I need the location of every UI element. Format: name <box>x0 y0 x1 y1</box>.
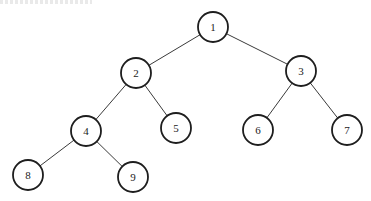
edge-2-4 <box>96 84 126 119</box>
node-label: 1 <box>210 21 216 33</box>
edge-1-2 <box>149 35 200 66</box>
node-label: 3 <box>298 65 304 77</box>
edge-3-6 <box>267 83 292 118</box>
tree-node-4: 4 <box>71 116 101 146</box>
edge-3-7 <box>310 83 338 118</box>
edge-4-9 <box>97 141 123 166</box>
tree-node-7: 7 <box>332 115 362 145</box>
edge-1-3 <box>226 34 287 65</box>
tree-node-1: 1 <box>198 12 228 42</box>
node-label: 6 <box>255 124 261 136</box>
tree-node-6: 6 <box>243 115 273 145</box>
node-label: 5 <box>173 122 179 134</box>
node-label: 2 <box>133 67 139 79</box>
edge-4-8 <box>40 140 74 166</box>
node-label: 9 <box>130 171 136 183</box>
tree-node-9: 9 <box>118 162 148 192</box>
tree-node-2: 2 <box>121 58 151 88</box>
nodes: 123456789 <box>13 12 362 192</box>
tree-node-8: 8 <box>13 160 43 190</box>
node-label: 8 <box>25 169 31 181</box>
edge-2-5 <box>145 85 167 116</box>
node-label: 7 <box>344 124 350 136</box>
tree-node-5: 5 <box>161 113 191 143</box>
tree-node-3: 3 <box>286 56 316 86</box>
node-label: 4 <box>83 125 89 137</box>
binary-tree-diagram: 123456789 <box>0 0 371 201</box>
